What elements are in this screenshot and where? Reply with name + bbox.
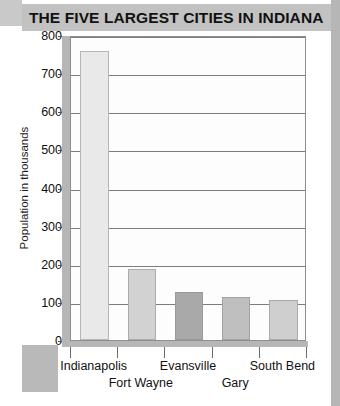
x-axis-category-label: Indianapolis [60,359,127,373]
bar-chart: Population in thousands 0100200300400500… [0,0,340,406]
bar [175,292,203,340]
x-axis: IndianapolisFort WayneEvansvilleGarySout… [70,347,306,406]
bar [222,297,250,340]
x-axis-category-label: Fort Wayne [109,376,173,390]
bar [80,51,108,340]
x-axis-tick-mark [212,347,213,358]
x-axis-tick-mark [117,347,118,358]
x-axis-category-label: Gary [222,376,249,390]
x-axis-tick-mark [259,347,260,358]
y-axis-tick-labels: 0100200300400500600700800 [22,0,62,406]
x-axis-tick-mark [164,347,165,358]
y-axis-bar [62,36,70,343]
chart-page: THE FIVE LARGEST CITIES IN INDIANA Popul… [0,0,340,406]
bar [128,269,156,340]
plot-area [70,36,306,341]
x-axis-category-label: Evansville [160,359,216,373]
gridline [71,37,305,38]
x-axis-category-label: South Bend [250,359,315,373]
x-axis-tick-mark [70,347,71,358]
x-axis-tick-mark [306,347,307,358]
bar [269,300,297,340]
